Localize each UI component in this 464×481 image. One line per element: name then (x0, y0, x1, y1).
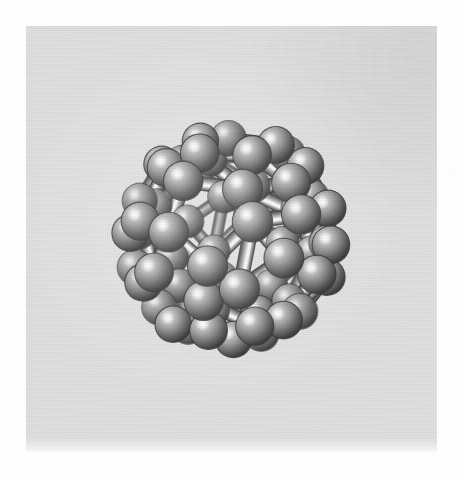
atom (235, 307, 274, 346)
atom (232, 135, 272, 175)
scanned-page: · · · · · · · · · · · ·· ··· ···· ··· ··… (0, 0, 464, 481)
atom (232, 201, 273, 242)
atom (263, 238, 304, 279)
atom (134, 252, 174, 292)
atom (163, 161, 204, 202)
ghost-text-bottom: · · · · · · · (100, 470, 196, 479)
atom (281, 194, 321, 234)
ghost-text-top: · · · · · · · · · · · (6, 1, 158, 13)
c60-fullerene-model (26, 26, 437, 452)
ghost-text-top-secondary: ·· ··· ···· ··· ·· ··· ···· ··· ·· (70, 13, 257, 22)
ghost-text-right-lower: ···· (440, 258, 460, 268)
ghost-text-right-upper: ··· (444, 166, 459, 176)
figure-panel (26, 26, 437, 452)
atom (187, 245, 228, 286)
atom (148, 212, 189, 253)
